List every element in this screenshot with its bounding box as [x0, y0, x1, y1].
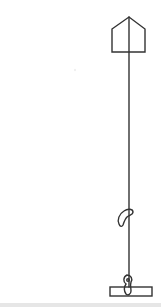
faint-speck: [74, 69, 76, 71]
line-illustration: [0, 0, 161, 307]
hook-bottom-icon: [124, 275, 132, 295]
hook-middle-icon: [118, 209, 133, 226]
hook-bottom-eye: [127, 279, 130, 282]
footer-bar: [0, 303, 161, 307]
